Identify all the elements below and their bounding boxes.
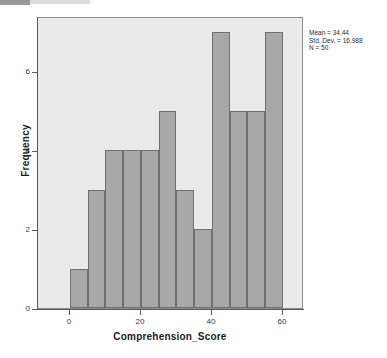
- x-tick-mark: [211, 310, 212, 315]
- histogram-chart: 0246 0204060 Frequency Comprehension_Sco…: [0, 0, 387, 358]
- y-axis-title: Frequency: [20, 71, 31, 231]
- y-tick-label: 0: [10, 305, 30, 313]
- histogram-bar: [212, 32, 230, 308]
- y-tick-mark: [32, 151, 37, 152]
- histogram-bar: [159, 111, 177, 308]
- x-axis-line: [36, 309, 304, 310]
- bars-container: [38, 18, 302, 308]
- window-edge-artifact: [0, 0, 30, 5]
- plot-area: [37, 17, 303, 309]
- histogram-bar: [105, 150, 123, 308]
- y-tick-mark: [32, 72, 37, 73]
- x-tick-label: 40: [199, 317, 223, 326]
- histogram-bar: [123, 150, 141, 308]
- stat-mean: Mean = 34.44: [309, 29, 385, 37]
- x-tick-label: 60: [270, 317, 294, 326]
- histogram-bar: [194, 229, 212, 308]
- histogram-bar: [70, 269, 88, 308]
- histogram-bar: [265, 32, 283, 308]
- histogram-bar: [88, 190, 106, 308]
- x-tick-mark: [140, 310, 141, 315]
- y-tick-mark: [32, 230, 37, 231]
- y-axis-line: [37, 17, 38, 310]
- x-tick-mark: [282, 310, 283, 315]
- histogram-bar: [176, 190, 194, 308]
- histogram-bar: [141, 150, 159, 308]
- x-axis-title: Comprehension_Score: [37, 331, 303, 342]
- histogram-bar: [247, 111, 265, 308]
- statistics-annotation: Mean = 34.44 Std. Dev. = 16.988 N = 50: [309, 29, 385, 52]
- x-tick-label: 0: [57, 317, 81, 326]
- window-edge-artifact-light: [30, 0, 90, 4]
- stat-n: N = 50: [309, 44, 385, 52]
- x-tick-mark: [69, 310, 70, 315]
- stat-std-dev: Std. Dev. = 16.988: [309, 37, 385, 45]
- x-tick-label: 20: [128, 317, 152, 326]
- histogram-bar: [230, 111, 248, 308]
- y-tick-mark: [32, 309, 37, 310]
